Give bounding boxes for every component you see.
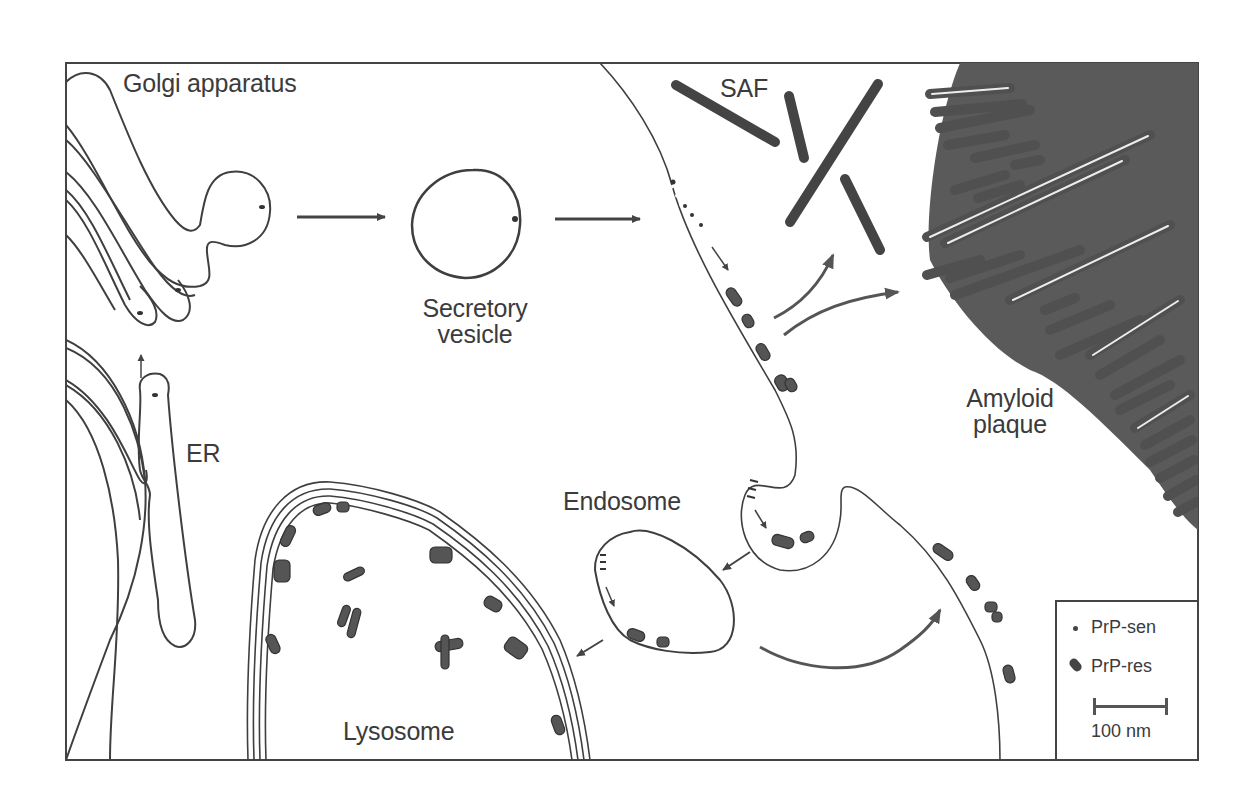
amyloid-plaque [927, 63, 1198, 530]
secretory-vesicle [412, 170, 520, 278]
golgi-apparatus [66, 73, 270, 325]
pit-to-endosome-arrow [723, 552, 750, 570]
prp-res-oblong-icon [1068, 657, 1084, 674]
label-amyloid-line1: Amyloid [955, 385, 1065, 411]
endosome [595, 531, 734, 653]
membrane-to-saf-arrow [774, 255, 833, 318]
label-amyloid-line2: plaque [955, 411, 1065, 437]
prp-sen-dot-icon [1073, 626, 1078, 631]
endoplasmic-reticulum [66, 340, 195, 760]
lysosome-prp-res [264, 501, 566, 736]
label-lysosome: Lysosome [343, 718, 454, 744]
label-endosome: Endosome [563, 488, 681, 514]
label-golgi-apparatus: Golgi apparatus [123, 70, 297, 96]
scale-bar [1093, 705, 1167, 708]
label-saf: SAF [720, 75, 768, 101]
scale-bar-label: 100 nm [1091, 721, 1151, 742]
legend-label-prp-sen: PrP-sen [1091, 617, 1156, 638]
label-secretory-line2: vesicle [400, 321, 550, 347]
label-er: ER [186, 440, 220, 466]
recycling-arrow [760, 610, 940, 668]
legend-label-prp-res: PrP-res [1091, 656, 1152, 677]
label-secretory-line1: Secretory [400, 295, 550, 321]
legend-box: PrP-sen PrP-res 100 nm [1055, 600, 1198, 760]
scale-bar-right-tick [1165, 698, 1168, 715]
saf-fibrils [676, 84, 880, 250]
label-amyloid-plaque: Amyloid plaque [955, 385, 1065, 438]
endosome-to-lysosome-arrow [577, 640, 603, 656]
label-secretory-vesicle: Secretory vesicle [400, 295, 550, 348]
